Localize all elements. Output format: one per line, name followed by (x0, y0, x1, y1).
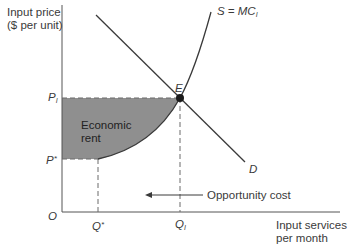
p-i-text: P (48, 91, 56, 103)
p-star-superscript: * (54, 154, 57, 163)
p-i-label: PI (48, 91, 58, 107)
q-i-subscript: I (184, 224, 186, 231)
opportunity-cost-label: Opportunity cost (207, 189, 291, 202)
q-i-label: QI (175, 218, 186, 234)
x-axis-label-line1: Input services (276, 219, 347, 232)
equilibrium-point (176, 94, 184, 102)
equilibrium-label: E (175, 82, 183, 95)
origin-label: O (48, 210, 57, 223)
arrow-head-icon (145, 192, 152, 198)
demand-curve-label: D (249, 163, 257, 176)
y-axis-label: Input price ($ per unit) (7, 6, 63, 32)
x-axis-label: Input services per month (276, 219, 347, 245)
economic-rent-line2: rent (81, 132, 132, 145)
supply-label-text: S = MC (217, 5, 256, 17)
supply-curve-label: S = MCI (217, 5, 258, 21)
economic-rent-line1: Economic (81, 119, 132, 132)
x-axis-label-line2: per month (276, 232, 347, 245)
y-axis-label-line2: ($ per unit) (7, 19, 63, 32)
p-star-label: P* (46, 152, 57, 167)
p-i-subscript: I (56, 97, 58, 104)
q-star-text: Q (92, 220, 101, 232)
supply-label-subscript: I (256, 11, 258, 18)
p-star-text: P (46, 154, 54, 166)
q-star-superscript: * (101, 220, 104, 229)
economic-rent-label: Economic rent (81, 119, 132, 145)
y-axis-label-line1: Input price (7, 6, 63, 19)
q-i-text: Q (175, 218, 184, 230)
q-star-label: Q* (92, 218, 104, 233)
